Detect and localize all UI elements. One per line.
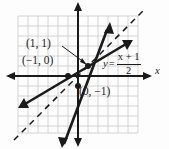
equation-equals-sign: =: [109, 59, 115, 70]
line-steep-arrow-down: [58, 137, 68, 148]
leader-arrow-point-1-1: [80, 58, 87, 65]
x-axis-arrow-left: [6, 72, 15, 80]
x-axis-label: x: [155, 66, 160, 77]
equation-fraction: x + 1 2: [117, 52, 141, 77]
x-axis-arrow-right: [143, 72, 152, 80]
point-label-0-neg1: (0, −1): [79, 86, 110, 98]
graph-canvas: [0, 0, 169, 149]
coordinate-plane-figure: (1, 1) (−1, 0) (0, −1) x y = x + 1 2: [0, 0, 169, 149]
equation-lhs: y: [103, 59, 108, 70]
y-axis-arrow-up: [74, 2, 82, 11]
point-label-1-1: (1, 1): [26, 38, 51, 50]
equation-numerator: x + 1: [117, 52, 141, 63]
equation-label: y = x + 1 2: [103, 52, 141, 77]
y-axis-arrow-down: [74, 138, 82, 147]
equation-denominator: 2: [125, 66, 132, 77]
point-label-neg1-0: (−1, 0): [22, 55, 53, 67]
point-marker-neg1-0: [65, 73, 71, 79]
line-steep-arrow-up: [104, 22, 114, 34]
